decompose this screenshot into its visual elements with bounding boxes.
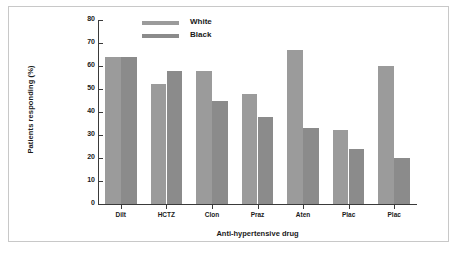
- x-tick-label-6: Plac: [372, 211, 416, 218]
- bar-plac-black: [349, 149, 365, 204]
- x-tick-label-5: Plac: [327, 211, 371, 218]
- figure-frame: Patients responding (%) 0102030405060708…: [8, 6, 449, 242]
- x-tick-mark: [121, 205, 122, 209]
- y-tick-label: 60: [73, 61, 95, 68]
- legend-label-black: Black: [190, 30, 211, 39]
- y-tick-label: 30: [73, 130, 95, 137]
- legend-swatch-white: [142, 21, 179, 25]
- bar-hctz-white: [151, 84, 167, 204]
- bar-aten-white: [287, 50, 303, 204]
- x-tick-mark: [349, 205, 350, 209]
- y-tick-label: 50: [73, 84, 95, 91]
- bar-plac-white: [378, 66, 394, 204]
- x-tick-label-2: Clon: [190, 211, 234, 218]
- bar-praz-white: [242, 94, 258, 204]
- bar-clon-white: [196, 71, 212, 204]
- x-tick-mark: [166, 205, 167, 209]
- x-tick-label-4: Aten: [281, 211, 325, 218]
- y-tick-label: 70: [73, 38, 95, 45]
- bar-dilt-white: [105, 57, 121, 204]
- bar-plac-black: [394, 158, 410, 204]
- x-tick-label-1: HCTZ: [144, 211, 188, 218]
- bar-dilt-black: [121, 57, 137, 204]
- legend-swatch-black: [142, 34, 179, 38]
- y-tick-label: 20: [73, 153, 95, 160]
- y-tick-label: 10: [73, 176, 95, 183]
- bar-aten-black: [303, 128, 319, 204]
- x-tick-label-3: Praz: [236, 211, 280, 218]
- y-tick-label: 0: [73, 199, 95, 206]
- x-tick-mark: [394, 205, 395, 209]
- x-tick-mark: [212, 205, 213, 209]
- bars-layer: [98, 20, 417, 204]
- y-tick-label: 40: [73, 107, 95, 114]
- x-axis-title: Anti-hypertensive drug: [98, 229, 417, 238]
- x-tick-mark: [303, 205, 304, 209]
- x-tick-mark: [258, 205, 259, 209]
- y-axis-title: Patients responding (%): [26, 35, 35, 185]
- bar-clon-black: [212, 101, 228, 205]
- bar-praz-black: [258, 117, 274, 204]
- bar-plac-white: [333, 130, 349, 204]
- bar-hctz-black: [167, 71, 183, 204]
- y-tick-label: 80: [73, 15, 95, 22]
- legend-label-white: White: [190, 17, 212, 26]
- bar-chart-plot-area: Patients responding (%) 0102030405060708…: [9, 7, 450, 243]
- x-tick-label-0: Dilt: [99, 211, 143, 218]
